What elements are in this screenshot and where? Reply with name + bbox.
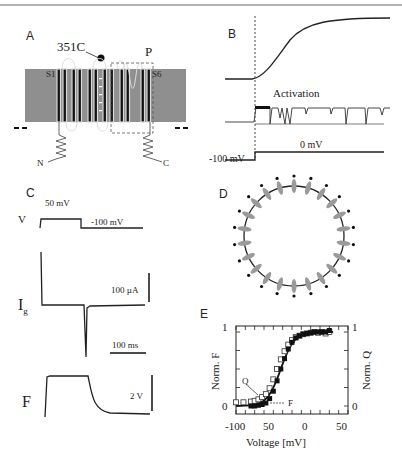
residue-pointer — [86, 52, 99, 58]
membrane-ring — [244, 186, 344, 286]
x-tick-2: 0 — [302, 420, 308, 432]
panel-e-label: E — [200, 307, 208, 321]
single-channel-trace — [225, 107, 390, 124]
panel-a: A 351C P S1 S6 — [14, 29, 188, 168]
n-terminus — [48, 122, 66, 162]
activation-label: Activation — [273, 87, 320, 99]
left-tick-1: 1 — [222, 321, 228, 333]
figure-canvas: A 351C P S1 S6 — [0, 0, 402, 464]
x-tick-0: -100 — [225, 420, 246, 432]
left-axis-label: Norm. F — [209, 353, 221, 390]
x-axis-label: Voltage [mV] — [246, 436, 306, 448]
panel-d-label: D — [219, 187, 228, 201]
ig-label: Ig — [18, 296, 28, 316]
fluor-scale-label: 2 V — [130, 391, 144, 401]
c-holding-label: -100 mV — [91, 217, 124, 227]
panel-c: C 50 mV V -100 mV Ig 100 µA 100 ms F 2 V — [18, 186, 152, 417]
panel-b: B Activation 0 mV -100 mV — [209, 16, 390, 164]
s6-label: S6 — [152, 69, 162, 79]
n-label: N — [37, 158, 44, 168]
x-tick-3: 50 — [336, 420, 348, 432]
x-tick-1: 50 — [263, 420, 275, 432]
s1-label: S1 — [46, 69, 56, 79]
right-tick-1: 1 — [352, 321, 358, 333]
left-tick-0: 0 — [222, 400, 228, 412]
panel-a-label: A — [26, 29, 34, 43]
c-terminus — [143, 122, 162, 162]
holding-label: -100 mV — [209, 153, 246, 164]
right-axis-label: Norm. Q — [360, 351, 372, 390]
step-label: 0 mV — [300, 139, 323, 150]
panel-b-label: B — [228, 27, 236, 41]
channel-subunits — [233, 174, 355, 297]
f-annotation: F — [288, 398, 293, 408]
c-label: C — [163, 158, 169, 168]
q-annotation: Q — [242, 376, 249, 386]
right-tick-0: 0 — [352, 400, 358, 412]
pore-label: P — [145, 44, 152, 59]
panel-e: E 1 0 1 0 -100 50 0 50 Voltage [mV] Norm… — [200, 307, 372, 448]
voltage-step — [225, 152, 384, 160]
pulse-label: 50 mV — [45, 198, 70, 208]
v-label: V — [18, 213, 26, 225]
panel-d: D — [219, 174, 355, 297]
residue-label: 351C — [57, 39, 85, 54]
current-scale-label: 100 µA — [111, 285, 139, 295]
activation-curve — [225, 18, 390, 79]
panel-c-label: C — [26, 186, 35, 200]
f-label: F — [22, 393, 31, 410]
time-scale-label: 100 ms — [112, 340, 139, 350]
